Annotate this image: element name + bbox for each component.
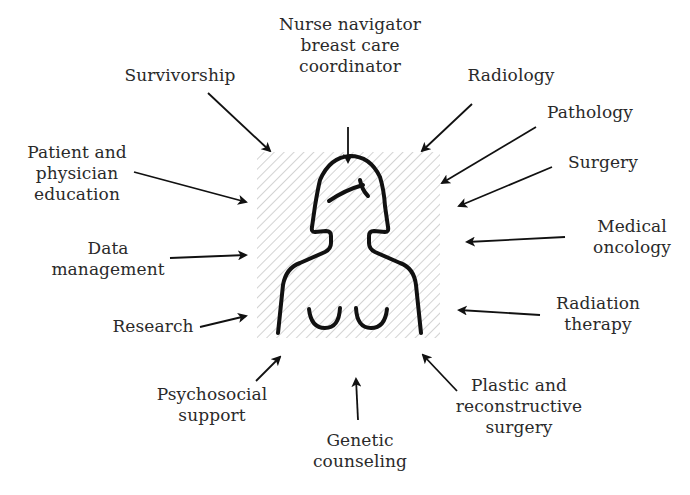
label-surgery: Surgery [560, 152, 646, 173]
multidisciplinary-breast-care-diagram: Nurse navigator breast care coordinator … [0, 0, 690, 495]
label-survivorship: Survivorship [112, 65, 248, 86]
label-data-management: Data management [46, 238, 170, 280]
label-psychosocial-support: Psychosocial support [150, 384, 274, 426]
label-radiation-therapy: Radiation therapy [548, 293, 648, 335]
label-plastic-reconstructive-surgery: Plastic and reconstructive surgery [448, 375, 590, 438]
arrow-genetic-counseling [356, 379, 358, 420]
arrow-survivorship [208, 93, 270, 151]
label-genetic-counseling: Genetic counseling [310, 430, 410, 472]
arrow-data-management [170, 255, 246, 258]
label-pathology: Pathology [538, 102, 642, 123]
arrow-research [200, 316, 246, 327]
arrow-pathology [442, 127, 536, 183]
label-radiology: Radiology [458, 65, 564, 86]
arrow-patient-physician-education [134, 172, 246, 202]
arrow-medical-oncology [467, 237, 565, 242]
arrow-radiology [422, 104, 472, 151]
arrow-psychosocial-support [256, 357, 280, 381]
arrow-radiation-therapy [459, 310, 540, 315]
hatched-background [257, 152, 440, 338]
label-research: Research [108, 316, 198, 337]
label-patient-physician-education: Patient and physician education [22, 142, 132, 205]
label-nurse-navigator: Nurse navigator breast care coordinator [272, 14, 428, 77]
arrow-surgery [459, 167, 552, 206]
label-medical-oncology: Medical oncology [582, 216, 682, 258]
